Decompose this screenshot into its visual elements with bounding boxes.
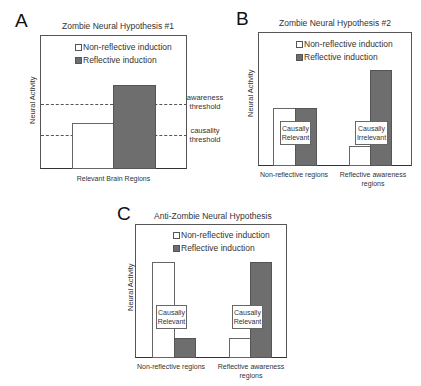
causality-threshold-label: causality threshold — [185, 126, 225, 144]
causally-irrelevant-box: Causally Irrelevant — [355, 121, 388, 145]
legend-item: Non-reflective induction — [296, 39, 393, 52]
legend-item: Reflective induction — [296, 52, 393, 65]
chart-title: Zombie Neural Hypothesis #1 — [62, 21, 174, 31]
panel-letter: C — [117, 203, 131, 225]
bar-awareness-regions-reflective — [370, 70, 392, 166]
gray-swatch-icon — [75, 57, 82, 64]
plot-area: Non-reflective induction Reflective indu… — [135, 224, 287, 358]
legend: Non-reflective induction Reflective indu… — [173, 230, 270, 256]
x-tick-label: Non-reflective regions — [133, 362, 209, 371]
bar-reflective — [113, 85, 156, 169]
plot-area: Non-reflective induction Reflective indu… — [40, 35, 187, 169]
gray-swatch-icon — [173, 245, 180, 252]
panel-letter: B — [236, 8, 249, 30]
chart-title: Zombie Neural Hypothesis #2 — [279, 18, 391, 28]
x-tick-label: Non-reflective regions — [256, 170, 332, 179]
white-swatch-icon — [173, 232, 180, 239]
legend-item: Non-reflective induction — [173, 230, 270, 243]
chart-title: Anti-Zombie Neural Hypothesis — [154, 211, 272, 221]
white-swatch-icon — [75, 44, 82, 51]
y-axis-label: Neural Activity — [246, 69, 255, 117]
white-swatch-icon — [296, 41, 303, 48]
bar-nonreflective-regions-reflective — [174, 338, 196, 358]
legend-item: Reflective induction — [173, 243, 270, 256]
causally-relevant-box: Causally Relevant — [156, 305, 187, 329]
legend-item: Reflective induction — [75, 55, 172, 68]
causally-relevant-box: Causally Relevant — [232, 305, 263, 329]
bar-non-reflective — [72, 123, 114, 169]
panel-letter: A — [15, 10, 28, 32]
y-axis-label: Neural Activity — [126, 263, 135, 311]
x-tick-label: Reflective awareness regions — [334, 170, 412, 188]
x-axis-label: Relevant Brain Regions — [40, 174, 187, 183]
x-tick-label: Reflective awareness regions — [212, 362, 290, 380]
legend-item: Non-reflective induction — [75, 42, 172, 55]
gray-swatch-icon — [296, 54, 303, 61]
causally-relevant-box: Causally Relevant — [280, 121, 311, 145]
bar-awareness-regions-non-reflective — [349, 146, 371, 166]
awareness-threshold-label: awareness threshold — [185, 93, 225, 111]
bar-awareness-regions-non-reflective — [229, 338, 251, 358]
y-axis-label: Neural Activity — [28, 76, 37, 124]
legend: Non-reflective induction Reflective indu… — [75, 42, 172, 68]
legend: Non-reflective induction Reflective indu… — [296, 39, 393, 65]
plot-area: Non-reflective induction Reflective indu… — [258, 32, 412, 166]
